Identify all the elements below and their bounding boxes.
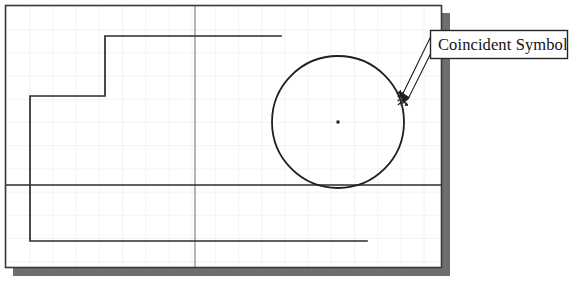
circle-center-point[interactable] xyxy=(337,121,340,124)
callout-label: Coincident Symbol xyxy=(438,35,568,54)
sketch-grid xyxy=(6,6,442,268)
sketch-svg-root: Coincident Symbol xyxy=(0,0,574,281)
screenshot-canvas: Coincident Symbol xyxy=(0,0,574,281)
callout-box[interactable]: Coincident Symbol xyxy=(431,31,568,59)
